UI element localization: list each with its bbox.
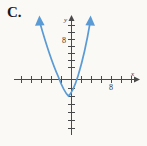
y-axis-arrowhead [69, 15, 75, 21]
parabola-left-arrowhead [35, 16, 45, 26]
y-axis-tick-label-8: 8 [62, 36, 66, 45]
x-axis-tick-label-8: 8 [109, 83, 113, 92]
graph-figure: C. [0, 0, 147, 146]
y-axis-name: y [63, 16, 68, 24]
x-axis-arrowhead [134, 77, 140, 83]
coordinate-plot: y x 8 8 [0, 0, 147, 146]
parabola-curve [40, 23, 90, 96]
parabola-right-arrowhead [85, 16, 95, 26]
